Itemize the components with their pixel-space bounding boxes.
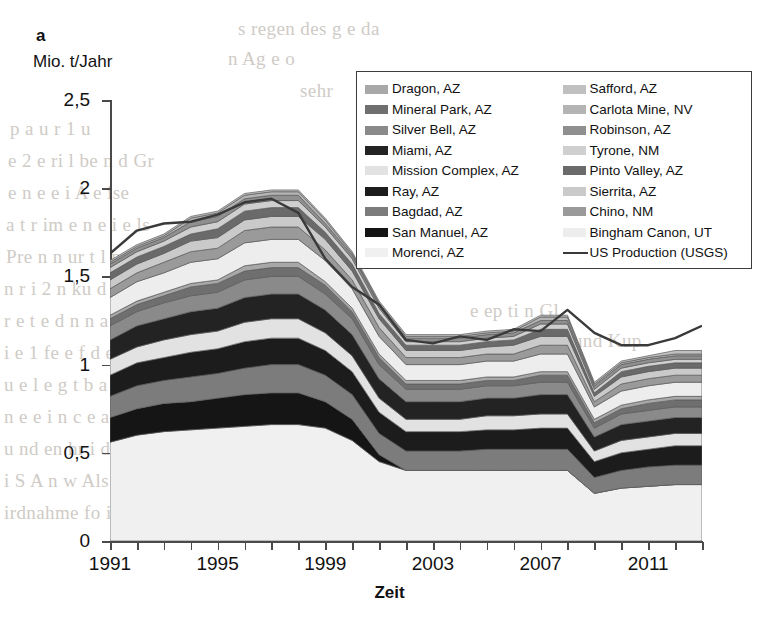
legend-item-label: Ray, AZ (392, 185, 439, 199)
legend-line-swatch (563, 252, 588, 254)
x-tick (298, 542, 300, 550)
legend-column-left: Dragon, AZMineral Park, AZSilver Bell, A… (365, 79, 563, 263)
legend-color-swatch (563, 126, 586, 135)
legend-item[interactable]: Carlota Mine, NV (563, 99, 745, 119)
legend-item-label: Mineral Park, AZ (392, 103, 492, 117)
legend-color-swatch (563, 166, 586, 175)
x-tick-label: 1995 (196, 553, 238, 575)
chart-legend: Dragon, AZMineral Park, AZSilver Bell, A… (356, 71, 752, 269)
y-tick-label: 1 (14, 354, 90, 376)
x-tick-label: 2011 (628, 553, 669, 575)
legend-item-label: San Manuel, AZ (392, 226, 488, 240)
x-tick (191, 542, 193, 550)
x-tick-label: 2007 (519, 553, 561, 575)
y-tick (102, 365, 110, 367)
legend-item-label: Silver Bell, AZ (392, 123, 476, 137)
legend-item-label: Miami, AZ (392, 144, 452, 158)
x-tick (406, 542, 408, 550)
legend-item[interactable]: Chino, NM (563, 202, 745, 222)
legend-item[interactable]: San Manuel, AZ (365, 222, 563, 242)
y-axis-title: Mio. t/Jahr (33, 52, 112, 72)
legend-color-swatch (365, 166, 388, 175)
x-tick (245, 542, 247, 550)
panel-letter: a (36, 26, 45, 46)
legend-column-right: Safford, AZCarlota Mine, NVRobinson, AZT… (563, 79, 745, 263)
y-tick (102, 541, 110, 543)
x-tick (567, 542, 569, 550)
x-tick (487, 542, 489, 550)
legend-item-label: Safford, AZ (590, 82, 657, 96)
legend-item[interactable]: Morenci, AZ (365, 243, 563, 263)
legend-item[interactable]: Sierrita, AZ (563, 181, 745, 201)
legend-item[interactable]: Bingham Canon, UT (563, 222, 745, 242)
legend-color-swatch (365, 187, 388, 196)
y-tick (102, 453, 110, 455)
legend-item-label: Dragon, AZ (392, 82, 460, 96)
y-tick-label: 0,5 (14, 442, 90, 464)
legend-color-swatch (365, 228, 388, 237)
legend-item[interactable]: Silver Bell, AZ (365, 120, 563, 140)
legend-item[interactable]: Safford, AZ (563, 79, 745, 99)
legend-item-label: US Production (USGS) (590, 246, 728, 260)
x-tick (110, 542, 112, 550)
legend-item[interactable]: Mineral Park, AZ (365, 99, 563, 119)
x-tick (675, 542, 677, 550)
x-tick (594, 542, 596, 550)
legend-item-label: Tyrone, NM (590, 144, 660, 158)
x-tick-label: 1991 (89, 553, 131, 575)
legend-item-label: Bingham Canon, UT (590, 226, 712, 240)
legend-item[interactable]: Tyrone, NM (563, 140, 745, 160)
x-tick (621, 542, 623, 550)
legend-item[interactable]: US Production (USGS) (563, 243, 745, 263)
legend-item[interactable]: Dragon, AZ (365, 79, 563, 99)
legend-item[interactable]: Pinto Valley, AZ (563, 161, 745, 181)
legend-item[interactable]: Ray, AZ (365, 181, 563, 201)
legend-color-swatch (563, 146, 586, 155)
legend-item-label: Morenci, AZ (392, 246, 464, 260)
y-tick-label: 1,5 (14, 265, 90, 287)
legend-item-label: Carlota Mine, NV (590, 103, 693, 117)
y-tick (102, 100, 110, 102)
legend-item-label: Mission Complex, AZ (392, 164, 519, 178)
legend-color-swatch (563, 228, 586, 237)
x-tick (648, 542, 650, 550)
x-tick (702, 542, 704, 550)
y-tick-label: 2 (14, 177, 90, 199)
legend-color-swatch (563, 207, 586, 216)
legend-item-label: Bagdad, AZ (392, 205, 463, 219)
legend-color-swatch (365, 85, 388, 94)
x-tick (271, 542, 273, 550)
legend-color-swatch (563, 187, 586, 196)
legend-color-swatch (365, 105, 388, 114)
legend-item[interactable]: Miami, AZ (365, 140, 563, 160)
x-tick (379, 542, 381, 550)
legend-color-swatch (365, 207, 388, 216)
legend-item-label: Chino, NM (590, 205, 654, 219)
y-tick (102, 276, 110, 278)
legend-color-swatch (365, 146, 388, 155)
legend-item[interactable]: Bagdad, AZ (365, 202, 563, 222)
y-tick-label: 0 (14, 530, 90, 552)
x-tick (137, 542, 139, 550)
legend-color-swatch (563, 85, 586, 94)
x-tick (460, 542, 462, 550)
x-tick (541, 542, 543, 550)
x-tick-label: 2003 (412, 553, 454, 575)
legend-item-label: Robinson, AZ (590, 123, 671, 137)
legend-item[interactable]: Mission Complex, AZ (365, 161, 563, 181)
figure-panel-a: a Mio. t/Jahr 00,511,522,5 1991199519992… (0, 0, 779, 628)
x-tick (164, 542, 166, 550)
x-tick (325, 542, 327, 550)
x-tick-label: 1999 (304, 553, 346, 575)
legend-color-swatch (365, 126, 388, 135)
x-tick (433, 542, 435, 550)
legend-color-swatch (365, 248, 388, 257)
x-axis-title: Zeit (0, 583, 779, 603)
x-tick (514, 542, 516, 550)
legend-item[interactable]: Robinson, AZ (563, 120, 745, 140)
legend-color-swatch (563, 105, 586, 114)
x-tick (352, 542, 354, 550)
legend-item-label: Sierrita, AZ (590, 185, 657, 199)
x-tick (218, 542, 220, 550)
y-tick (102, 188, 110, 190)
